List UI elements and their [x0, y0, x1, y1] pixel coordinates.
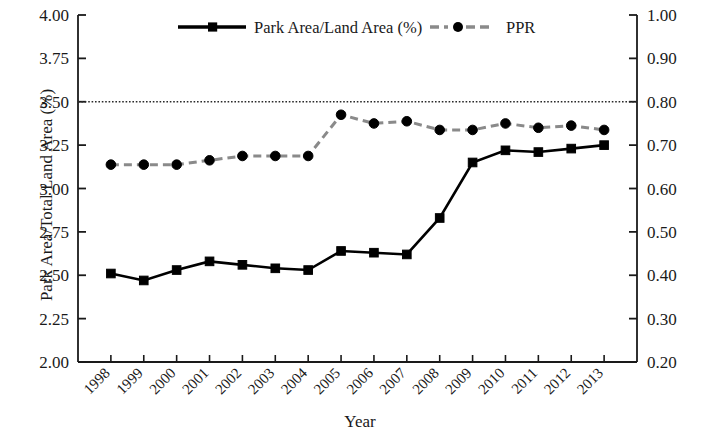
series-marker — [205, 156, 215, 166]
x-axis-tick-label: 2003 — [245, 365, 278, 398]
x-axis-tick-label: 2005 — [311, 365, 344, 398]
series-marker — [107, 269, 116, 278]
series-line — [111, 115, 604, 165]
legend-label: PPR — [506, 18, 535, 37]
series-marker — [435, 214, 444, 223]
series-marker — [337, 247, 346, 256]
x-axis-tick-label: 2013 — [574, 365, 607, 398]
chart-legend: Park Area/Land Area (%)PPR — [178, 18, 535, 37]
x-axis-tick-label: 2007 — [376, 364, 409, 397]
x-axis-tick-label: 2006 — [344, 364, 377, 397]
legend-item: Park Area/Land Area (%) — [178, 18, 422, 37]
series-marker — [501, 119, 511, 129]
y-axis-right-tick-label: 0.90 — [647, 49, 677, 68]
x-axis-tick-label: 2009 — [442, 365, 475, 398]
y-axis-left-tick-label: 4.00 — [39, 6, 69, 25]
x-axis-tick-label: 2001 — [179, 365, 212, 398]
x-axis-tick-label: 2000 — [146, 365, 179, 398]
series-marker — [106, 160, 116, 170]
y-axis-left-title: Park Area/Total Land Area (%) — [37, 30, 57, 360]
series-marker — [403, 250, 412, 259]
y-axis-right-tick-label: 0.70 — [647, 136, 677, 155]
series-marker — [468, 125, 478, 135]
y-axis-right-tick-label: 0.40 — [647, 266, 677, 285]
y-axis-right-tick-label: 0.30 — [647, 310, 677, 329]
x-axis-tick-label: 2011 — [508, 365, 540, 397]
data-series-layer — [106, 110, 609, 285]
series-marker — [599, 125, 609, 135]
x-axis-tick-label: 1999 — [113, 365, 146, 398]
series-marker — [238, 151, 248, 161]
chart-plot-area: 2.002.252.502.753.003.253.503.754.00 0.2… — [0, 0, 717, 439]
series-marker — [369, 119, 379, 129]
y-axis-right-tick-label: 1.00 — [647, 6, 677, 25]
y-axis-right-tick-label: 0.80 — [647, 93, 677, 112]
series-marker — [501, 146, 510, 155]
x-axis-tick-label: 2008 — [409, 365, 442, 398]
series-marker — [534, 123, 544, 133]
series-marker — [139, 276, 148, 285]
legend-label: Park Area/Land Area (%) — [254, 18, 422, 37]
series-marker — [600, 141, 609, 150]
y-axis-right-tick-label: 0.20 — [647, 353, 677, 372]
series-marker — [139, 160, 149, 170]
x-axis-tick-label: 2012 — [541, 365, 574, 398]
series-marker — [304, 266, 313, 275]
data-series — [106, 110, 609, 169]
series-marker — [303, 151, 313, 161]
series-marker — [270, 151, 280, 161]
series-marker — [172, 160, 182, 170]
series-marker — [402, 116, 412, 126]
legend-marker — [453, 22, 463, 32]
series-line — [111, 145, 604, 280]
series-marker — [567, 144, 576, 153]
x-axis-title: Year — [280, 412, 440, 432]
series-marker — [534, 148, 543, 157]
x-axis-tick-label: 2010 — [475, 365, 508, 398]
data-series — [107, 141, 609, 285]
chart-figure: Park Area/Total Land Area (%) Park Provi… — [0, 0, 717, 439]
x-axis-tick-label: 2002 — [212, 365, 245, 398]
series-marker — [370, 248, 379, 257]
y-axis-right-tick-label: 0.60 — [647, 180, 677, 199]
series-marker — [205, 257, 214, 266]
series-marker — [271, 264, 280, 273]
legend-item: PPR — [430, 18, 535, 37]
series-marker — [468, 158, 477, 167]
x-axis-tick-label: 2004 — [278, 364, 311, 397]
series-marker — [566, 121, 576, 131]
series-marker — [172, 266, 181, 275]
y-axis-right-tick-label: 0.50 — [647, 223, 677, 242]
series-marker — [336, 110, 346, 120]
series-marker — [435, 125, 445, 135]
series-marker — [238, 261, 247, 270]
legend-marker — [208, 22, 217, 31]
x-axis-tick-label: 1998 — [80, 365, 113, 398]
